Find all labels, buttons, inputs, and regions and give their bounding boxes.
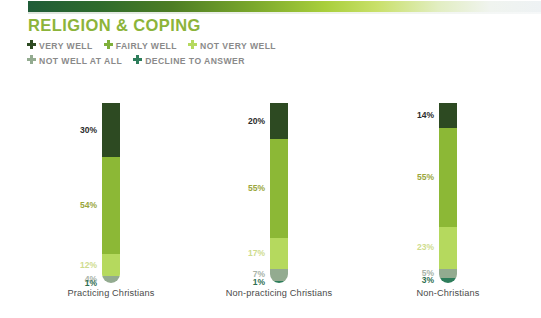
bar-segment [102,276,120,283]
bar-segment [270,139,288,238]
top-gradient-band [28,1,541,12]
segment-value-label: 14% [417,111,434,120]
legend: VERY WELLFAIRLY WELLNOT VERY WELLNOT WEL… [27,36,527,66]
legend-item-label: NOT WELL AT ALL [39,56,122,66]
plus-icon [27,55,36,64]
stacked-bar[interactable] [270,103,288,283]
bar-segment [439,128,457,227]
bar-segment [102,254,120,276]
segment-value-label: 55% [417,173,434,182]
segment-value-label: 1% [253,278,265,287]
plus-icon [27,40,36,49]
segment-value-label: 55% [248,184,265,193]
plus-icon [133,55,142,64]
stacked-bar[interactable] [102,103,120,283]
bar-segment [270,103,288,139]
bar-group: 30%54%12%4%1%Practicing Christians [23,92,199,318]
bar-segment [439,227,457,268]
bar-segment [270,238,288,269]
page-title: RELIGION & COPING [28,16,201,35]
bar-segment [102,103,120,157]
segment-value-label: 20% [248,117,265,126]
legend-item-label: VERY WELL [39,41,93,51]
plus-icon [104,40,113,49]
legend-item-label: NOT VERY WELL [200,41,276,51]
plus-icon [188,40,197,49]
bar-segment [102,157,120,254]
infographic-page: RELIGION & COPING VERY WELLFAIRLY WELLNO… [0,0,541,318]
segment-value-label: 30% [80,126,97,135]
top-band-shadow [28,12,541,14]
legend-row: NOT WELL AT ALLDECLINE TO ANSWER [27,51,527,66]
stacked-bar[interactable] [439,103,457,283]
bar-group: 20%55%17%7%1%Non-practicing Christians [191,92,367,318]
segment-value-label: 54% [80,201,97,210]
bar-category-label: Non-practicing Christians [191,288,367,298]
legend-item-label: DECLINE TO ANSWER [145,56,245,66]
legend-row: VERY WELLFAIRLY WELLNOT VERY WELL [27,36,527,51]
legend-item-not-well-at-all: NOT WELL AT ALL [27,51,122,69]
bar-category-label: Practicing Christians [23,288,199,298]
segment-value-label: 3% [422,276,434,285]
bar-group: 14%55%23%5%3%Non-Christians [360,92,536,318]
segment-value-label: 17% [248,249,265,258]
bar-segment [439,278,457,283]
stacked-bar-chart: 30%54%12%4%1%Practicing Christians20%55%… [0,92,541,318]
bar-segment [439,103,457,128]
legend-item-decline-to-answer: DECLINE TO ANSWER [133,51,245,69]
bar-segment [270,269,288,282]
bar-segment [439,269,457,278]
bar-category-label: Non-Christians [360,288,536,298]
legend-item-label: FAIRLY WELL [116,41,177,51]
segment-value-label: 12% [80,261,97,270]
segment-value-label: 23% [417,243,434,252]
bar-segment [270,281,288,283]
